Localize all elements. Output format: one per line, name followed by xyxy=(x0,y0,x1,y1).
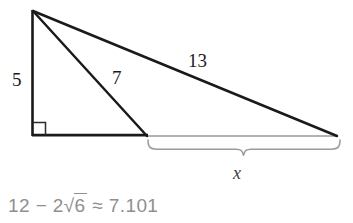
answer-value: 7.101 xyxy=(109,195,159,216)
approx-equals-sign: ≈ xyxy=(92,195,103,216)
label-cevian-7: 7 xyxy=(112,68,122,87)
answer-prefix: 12 xyxy=(8,195,30,216)
label-hypotenuse-13: 13 xyxy=(188,51,207,70)
geometry-figure: 5 7 13 x 12 − 2√6 ≈ 7.101 xyxy=(0,0,353,223)
answer-coefficient: 2 xyxy=(53,195,64,216)
hypotenuse-line xyxy=(33,11,337,136)
triangle-diagram-svg xyxy=(0,0,353,223)
measurement-brace-icon xyxy=(148,140,340,155)
cevian-line xyxy=(33,11,147,136)
answer-minus-sign: − xyxy=(36,195,48,216)
right-angle-icon xyxy=(33,123,46,136)
answer-expression: 12 − 2√6 ≈ 7.101 xyxy=(8,193,158,219)
label-leg-5: 5 xyxy=(12,70,22,89)
radicand-value: 6 xyxy=(74,193,87,219)
radical-group: √6 xyxy=(64,193,87,219)
label-segment-x: x xyxy=(233,164,241,182)
